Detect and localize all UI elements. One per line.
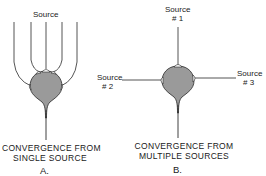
fiber-5 (61, 22, 77, 86)
source-1-label: Source (165, 6, 190, 14)
source-2-number: # 2 (102, 83, 113, 91)
panel-b-caption-line2: MULTIPLE SOURCES (134, 152, 234, 161)
panel-b-soma (161, 65, 195, 139)
fiber-4 (53, 22, 62, 72)
panel-a-soma (29, 70, 63, 141)
source-3-label: Source (237, 70, 262, 78)
source-3-number: # 3 (243, 79, 254, 87)
panel-a-caption-line2: SINGLE SOURCE (2, 154, 98, 163)
panel-a-caption-line1: CONVERGENCE FROM (2, 144, 98, 153)
fiber-1 (14, 22, 31, 86)
source-2-label: Source (97, 74, 122, 82)
panel-b-caption-line1: CONVERGENCE FROM (134, 142, 234, 151)
panel-b-letter: B. (173, 165, 182, 175)
panel-a-letter: A. (40, 166, 49, 176)
panel-a-source-label: Source (33, 11, 58, 19)
fiber-2 (31, 22, 40, 72)
source-1-number: # 1 (172, 15, 183, 23)
